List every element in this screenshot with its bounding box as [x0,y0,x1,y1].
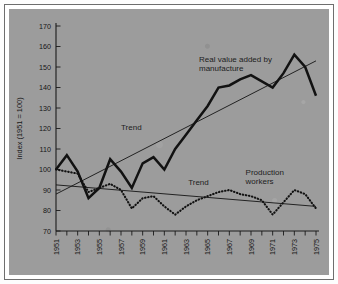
y-axis-title: Index (1951 = 100) [15,97,24,159]
y-tick-label: 170 [39,22,51,31]
x-tick-label: 1959 [138,239,147,255]
real-value-added-label: Real value added by [199,55,272,64]
x-tick-label: 1957 [117,239,126,255]
figure-container: 708090100110120130140150160170 195119531… [0,0,338,284]
trend-upper-label: Trend [121,123,142,132]
chart-panel: 708090100110120130140150160170 195119531… [9,9,329,275]
production-workers-label-line2: workers [245,177,274,186]
y-tick-label: 130 [39,104,51,113]
production-workers-label: Production [246,168,284,177]
x-tick-label: 1951 [52,239,61,255]
data-series-group [56,55,316,215]
x-tick-label: 1961 [160,239,169,255]
annotations-group: Real value added bymanufactureProduction… [121,55,284,187]
real-value-added-label-line2: manufacture [199,64,244,73]
y-tick-label: 80 [43,206,51,215]
series-real-value-added-by-manufacture [56,55,316,199]
x-tick-label: 1973 [290,239,299,255]
y-tick-label: 90 [43,186,51,195]
y-tick-label: 160 [39,42,51,51]
x-tick-label: 1971 [268,239,277,255]
y-tick-label: 140 [39,83,51,92]
x-tick-label: 1975 [312,239,321,255]
y-axis-label: Index (1951 = 100) [15,97,24,159]
x-axis: 1951195319551957195919611963196519671969… [52,231,321,255]
y-tick-label: 70 [43,227,51,236]
x-tick-label: 1955 [95,239,104,255]
trend-lower-label: Trend [188,178,209,187]
y-tick-label: 100 [39,165,51,174]
y-tick-label: 110 [40,145,51,154]
y-axis: 708090100110120130140150160170 [39,22,61,236]
x-tick-label: 1967 [225,239,234,255]
x-tick-label: 1969 [247,239,256,255]
y-tick-label: 150 [39,63,51,72]
chart-plot: 708090100110120130140150160170 195119531… [9,9,329,275]
y-tick-label: 120 [39,124,51,133]
x-tick-label: 1965 [203,239,212,255]
x-tick-label: 1963 [182,239,191,255]
x-tick-label: 1953 [73,239,82,255]
trend-production-workers [56,185,316,207]
